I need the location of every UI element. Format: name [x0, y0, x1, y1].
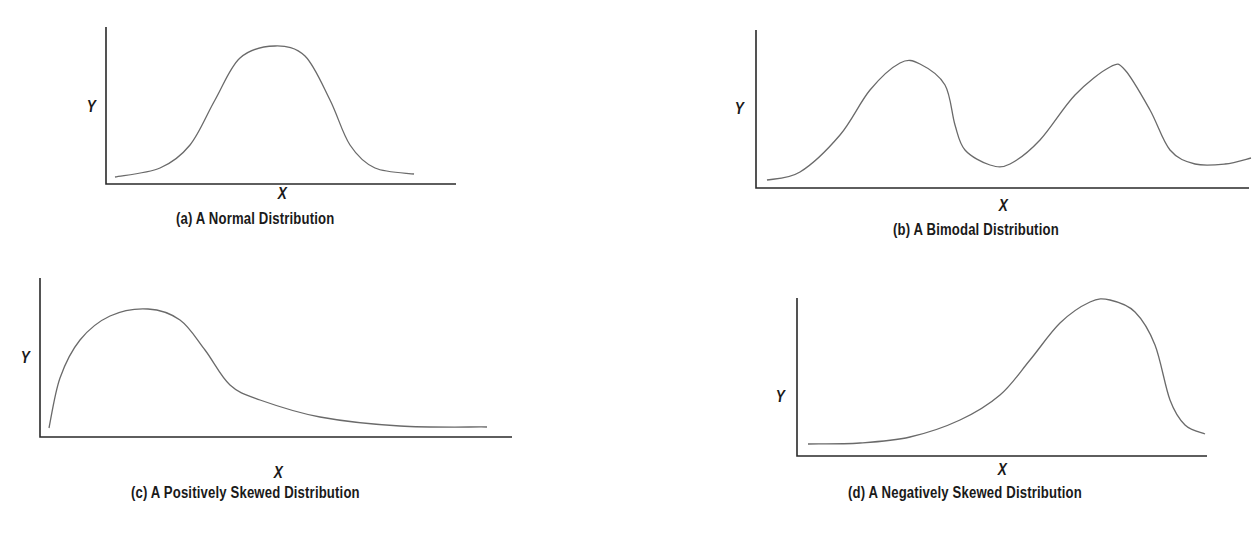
distribution-figure: Y X (a) A Normal Distribution Y X (b) A … [0, 0, 1257, 536]
panel-d [797, 298, 1207, 456]
panel-b-caption: (b) A Bimodal Distribution [893, 222, 1059, 238]
panel-c-axes [40, 278, 512, 437]
panel-c-distribution-curve [49, 309, 487, 428]
panel-a [106, 27, 456, 184]
panel-a-x-label: X [278, 186, 287, 202]
panel-a-caption: (a) A Normal Distribution [176, 211, 334, 227]
panel-d-x-label: X [998, 462, 1007, 478]
panel-d-y-label: Y [776, 389, 785, 405]
panel-d-distribution-curve [808, 299, 1205, 444]
panel-a-distribution-curve [115, 46, 414, 177]
panel-b [756, 30, 1251, 188]
panel-d-axes [797, 298, 1207, 456]
panel-c-x-label: X [274, 465, 283, 481]
panel-c-caption: (c) A Positively Skewed Distribution [131, 485, 360, 501]
panel-b-axes [756, 30, 1249, 188]
panel-a-y-label: Y [87, 99, 96, 115]
panel-b-x-label: X [999, 198, 1008, 214]
panel-a-axes [106, 27, 456, 184]
panel-b-y-label: Y [735, 101, 744, 117]
panel-b-distribution-curve [767, 60, 1251, 180]
panel-d-caption: (d) A Negatively Skewed Distribution [848, 485, 1082, 501]
plots-canvas [0, 0, 1257, 536]
panel-c-y-label: Y [21, 350, 30, 366]
panel-c [40, 278, 512, 437]
